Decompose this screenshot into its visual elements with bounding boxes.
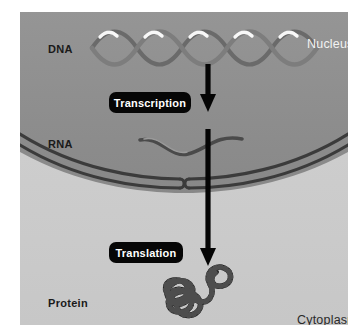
badge-transcription[interactable]: Transcription bbox=[109, 92, 191, 113]
badge-translation[interactable]: Translation bbox=[109, 242, 183, 263]
central-dogma-figure: DNA RNA Protein Nucleus Cytoplasm Transc… bbox=[0, 0, 359, 334]
label-cytoplasm: Cytoplasm bbox=[297, 314, 348, 325]
down-arrow-translation bbox=[200, 129, 216, 266]
label-protein: Protein bbox=[48, 298, 88, 309]
down-arrow-transcription bbox=[200, 64, 216, 112]
label-rna: RNA bbox=[48, 139, 73, 150]
diagram-panel: DNA RNA Protein Nucleus Cytoplasm Transc… bbox=[20, 12, 348, 325]
label-nucleus: Nucleus bbox=[307, 38, 348, 51]
process-arrows bbox=[20, 12, 348, 325]
label-dna: DNA bbox=[48, 44, 73, 55]
